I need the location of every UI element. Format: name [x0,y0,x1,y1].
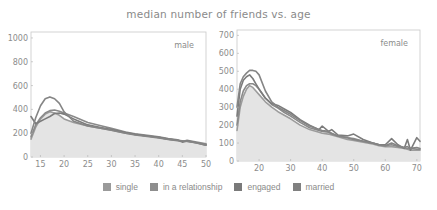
y-tick-label: 300 [219,103,234,112]
panel-male: 152025303540455002004006008001000male [8,32,211,169]
x-tick-label: 35 [130,160,140,169]
y-tick-label: 600 [13,82,28,91]
y-tick-label: 500 [219,67,234,76]
legend-label: single [116,182,138,192]
panel-label-female: female [380,39,408,48]
x-tick-label: 15 [35,160,45,169]
y-tick-label: 400 [219,85,234,94]
legend-label: engaged [247,182,280,192]
legend-item-engaged: engaged [234,182,280,192]
x-tick-label: 50 [201,160,211,169]
y-tick-label: 0 [23,153,28,162]
y-tick-label: 200 [13,129,28,138]
x-tick-label: 20 [254,164,264,173]
x-tick-label: 20 [59,160,69,169]
x-tick-label: 30 [286,164,296,173]
panel-label-male: male [174,41,194,50]
x-tick-label: 30 [106,160,116,169]
legend-swatch [234,183,242,191]
x-tick-label: 45 [177,160,187,169]
y-tick-label: 1000 [8,34,28,43]
legend-item-married: married [293,182,335,192]
y-tick-label: 600 [219,49,234,58]
y-tick-label: 800 [13,58,28,67]
legend-swatch [150,183,158,191]
x-tick-label: 60 [380,164,390,173]
y-tick-label: 700 [219,31,234,40]
y-tick-label: 100 [219,139,234,148]
y-tick-label: 0 [229,157,234,166]
legend-swatch [293,183,301,191]
legend-item-single: single [103,182,138,192]
y-tick-label: 400 [13,105,28,114]
x-tick-label: 70 [412,164,422,173]
legend-item-in-a-relationship: in a relationship [150,182,223,192]
chart-canvas: 152025303540455002004006008001000male203… [0,0,437,210]
legend-label: in a relationship [163,182,223,192]
legend-swatch [103,183,111,191]
legend-label: married [306,182,335,192]
x-tick-label: 25 [83,160,93,169]
x-tick-label: 50 [349,164,359,173]
legend: singlein a relationshipengagedmarried [0,182,437,192]
x-tick-label: 40 [154,160,164,169]
y-tick-label: 200 [219,121,234,130]
panel-female: 2030405060700100200300400500600700female [219,30,422,173]
x-tick-label: 40 [317,164,327,173]
